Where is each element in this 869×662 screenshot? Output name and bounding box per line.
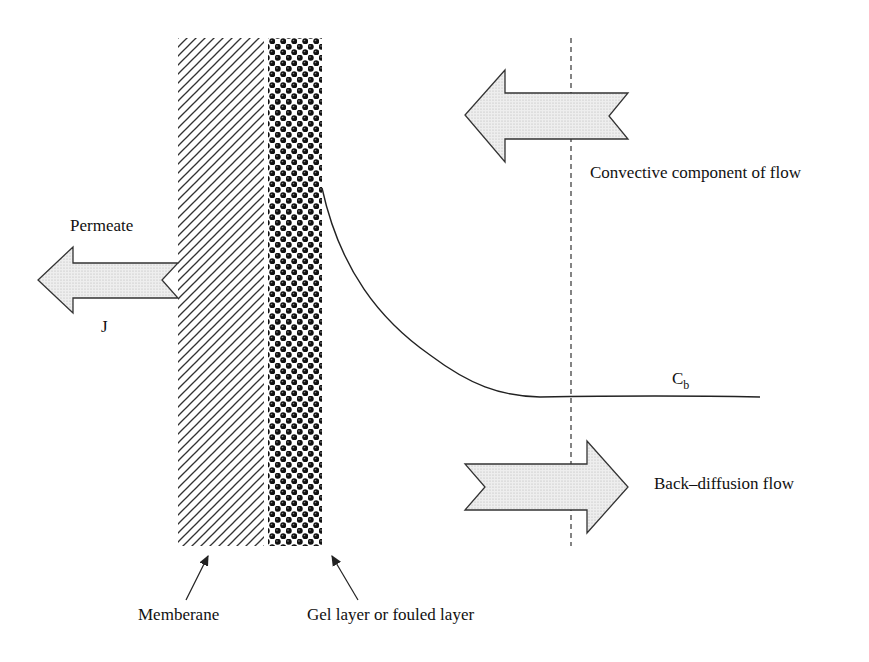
convective-arrow-icon xyxy=(465,70,628,162)
membrane-pointer-arrow xyxy=(186,556,208,600)
gel-pointer-arrow xyxy=(332,556,358,600)
cb-main: C xyxy=(672,369,683,388)
concentration-curve xyxy=(322,188,760,397)
cb-label: Cb xyxy=(672,370,689,387)
gel-layer-label: Gel layer or fouled layer xyxy=(307,606,474,623)
permeate-arrow-icon xyxy=(38,247,178,313)
convective-flow-label: Convective component of flow xyxy=(590,164,801,181)
flux-j-label: J xyxy=(101,318,108,335)
diagram-canvas xyxy=(0,0,869,662)
cb-subscript: b xyxy=(683,378,689,392)
back-diffusion-label: Back–diffusion flow xyxy=(654,475,794,492)
back-diffusion-arrow-icon xyxy=(465,441,628,533)
permeate-label: Permeate xyxy=(70,217,133,234)
membrane-label: Memberane xyxy=(138,606,219,623)
membrane-layer xyxy=(178,38,264,546)
gel-layer xyxy=(268,38,322,546)
